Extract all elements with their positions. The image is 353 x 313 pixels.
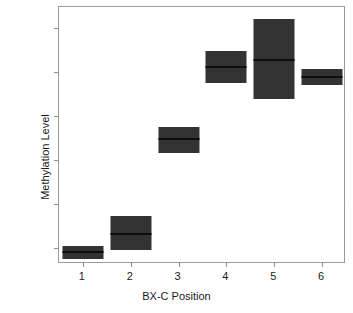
data-box xyxy=(254,19,295,99)
data-box xyxy=(110,216,151,250)
y-axis-title: Methylation Level xyxy=(39,114,51,200)
data-box-median-line xyxy=(206,66,247,68)
data-box-median-line xyxy=(62,251,103,253)
methylation-level-chart: Methylation Level 0.20.40.60.81.01.2 123… xyxy=(0,0,353,313)
x-axis-tick-mark xyxy=(179,262,180,267)
data-box xyxy=(62,246,103,259)
x-axis-title: BX-C Position xyxy=(0,290,353,302)
data-box xyxy=(158,127,199,153)
data-box xyxy=(302,69,343,85)
x-axis-tick-mark xyxy=(131,262,132,267)
plot-frame xyxy=(58,6,345,263)
x-axis-tick-mark xyxy=(274,262,275,267)
data-box-median-line xyxy=(158,138,199,140)
data-box-median-line xyxy=(302,76,343,78)
plot-data-area xyxy=(59,7,344,262)
x-axis-tick-mark xyxy=(226,262,227,267)
x-axis-tick-label: 3 xyxy=(175,271,181,282)
x-axis-tick-label: 5 xyxy=(270,271,276,282)
x-axis-tick-label: 4 xyxy=(222,271,228,282)
data-box-median-line xyxy=(110,233,151,235)
x-axis-tick-label: 1 xyxy=(79,271,85,282)
data-box xyxy=(206,51,247,83)
data-box-median-line xyxy=(254,59,295,61)
x-axis-tick-label: 6 xyxy=(318,271,324,282)
x-axis-tick-mark xyxy=(83,262,84,267)
x-axis-tick-mark xyxy=(322,262,323,267)
x-axis-tick-label: 2 xyxy=(127,271,133,282)
